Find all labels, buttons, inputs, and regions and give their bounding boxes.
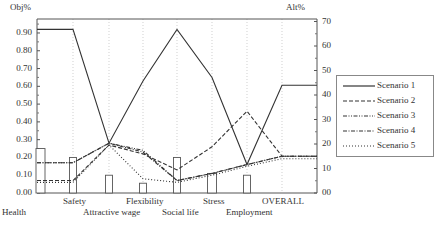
right-tick-label: 50 — [322, 65, 331, 75]
weight-bar — [208, 173, 217, 193]
x-category-label: OVERALL — [262, 196, 304, 206]
x-category-label: Safety — [63, 196, 86, 206]
right-tick-label: 70 — [322, 16, 331, 26]
weight-bar — [174, 157, 181, 193]
left-tick-label: 0.00 — [2, 187, 32, 197]
dash-dot-dot-line-icon — [343, 114, 375, 118]
legend-item-scenario-1: Scenario 1 — [337, 79, 433, 93]
weight-bar — [244, 175, 251, 193]
left-tick-label: 0.80 — [2, 45, 32, 55]
right-tick-label: 30 — [322, 114, 331, 124]
left-tick-label: 0.70 — [2, 63, 32, 73]
left-tick-label: 0.60 — [2, 80, 32, 90]
x-category-label: Stress — [203, 196, 225, 206]
legend: Scenario 1 Scenario 2 Scenario 3 Scenari… — [336, 75, 434, 157]
right-tick-label: 00 — [322, 187, 331, 197]
legend-item-scenario-2: Scenario 2 — [337, 94, 433, 108]
left-tick-label: 0.10 — [2, 169, 32, 179]
left-tick-label: 0.50 — [2, 98, 32, 108]
right-tick-label: 40 — [322, 89, 331, 99]
left-tick-label: 0.30 — [2, 134, 32, 144]
x-category-label: Social life — [162, 207, 199, 217]
weight-bar — [140, 183, 147, 193]
left-tick-label: 0.40 — [2, 116, 32, 126]
dash-dot-line-icon — [343, 129, 375, 133]
legend-item-scenario-3: Scenario 3 — [337, 109, 433, 123]
solid-line-icon — [343, 84, 375, 88]
dashed-line-icon — [343, 99, 375, 103]
left-tick-label: 0.90 — [2, 27, 32, 37]
right-axis-title: Alt% — [286, 2, 305, 12]
x-category-label: Health — [2, 207, 26, 217]
x-category-label: Employment — [226, 207, 273, 217]
legend-item-scenario-5: Scenario 5 — [337, 139, 433, 153]
dotted-line-icon — [343, 144, 375, 148]
left-tick-label: 0.20 — [2, 151, 32, 161]
weight-bar — [106, 175, 113, 193]
x-category-label: Attractive wage — [83, 207, 140, 217]
left-axis-title: Obj% — [10, 2, 31, 12]
right-tick-label: 10 — [322, 163, 331, 173]
legend-item-scenario-4: Scenario 4 — [337, 124, 433, 138]
right-tick-label: 60 — [322, 40, 331, 50]
right-tick-label: 20 — [322, 138, 331, 148]
x-category-label: Flexibility — [126, 196, 164, 206]
weight-bar — [36, 149, 45, 193]
